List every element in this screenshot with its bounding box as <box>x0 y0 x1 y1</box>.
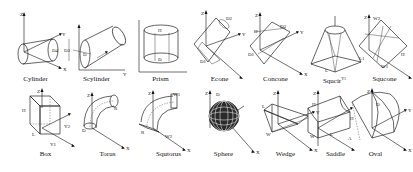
svg-text:W2: W2 <box>373 16 381 21</box>
svg-text:H: H <box>158 28 162 33</box>
svg-text:D2: D2 <box>280 24 287 29</box>
svg-text:L: L <box>325 68 328 73</box>
squtorus-drawing: Z X W1 W2 R <box>137 88 196 154</box>
svg-text:H: H <box>401 52 405 57</box>
shape-label: Cylinder <box>6 75 65 83</box>
svg-text:Z: Z <box>87 93 90 98</box>
shape-cylinder: Z Y X D3 D4 Cylinder <box>6 6 65 80</box>
svg-text:L: L <box>262 104 265 109</box>
svg-text:W1: W1 <box>173 92 181 97</box>
svg-text:D: D <box>82 128 86 133</box>
shape-label: Squtorus <box>139 150 198 158</box>
svg-text:Z: Z <box>313 91 316 96</box>
svg-text:Z: Z <box>148 91 151 96</box>
svg-text:Y2: Y2 <box>64 124 71 129</box>
svg-text:Y: Y <box>300 30 304 35</box>
svg-text:D: D <box>158 57 162 62</box>
svg-text:D2: D2 <box>226 16 233 21</box>
svg-text:Y: Y <box>408 108 412 113</box>
svg-text:W2: W2 <box>165 134 173 139</box>
svg-text:H: H <box>350 116 354 121</box>
svg-text:L: L <box>330 132 333 137</box>
svg-text:R: R <box>114 106 118 111</box>
svg-text:Z: Z <box>20 12 23 17</box>
squcone-drawing: Z W2 W1 L1 H <box>355 6 413 72</box>
shape-label: Scylinder <box>67 75 126 83</box>
shape-label: Sphere <box>194 150 253 158</box>
svg-text:W1: W1 <box>381 64 389 69</box>
shape-label: Torus <box>78 150 137 158</box>
svg-text:H: H <box>254 29 258 34</box>
shape-torus: Z X D R Torus <box>78 88 137 162</box>
shape-concone: Z Y X H D1 D2 Concone <box>246 6 305 80</box>
scylinder-drawing: Y D <box>67 6 126 72</box>
svg-text:Z: Z <box>255 13 258 18</box>
shape-scylinder: Y D Scylinder <box>67 6 126 80</box>
cylinder-drawing: Z Y X D3 D4 <box>6 6 65 72</box>
svg-text:D4: D4 <box>52 48 59 53</box>
sphere-drawing: Z X D <box>200 88 259 154</box>
svg-text:L1: L1 <box>359 56 365 61</box>
svg-text:Z: Z <box>201 11 204 16</box>
shape-squtorus: Z X W1 W2 R Squtorus <box>137 88 196 162</box>
svg-text:L: L <box>32 132 35 137</box>
svg-text:Z: Z <box>205 91 208 96</box>
svg-text:Y: Y <box>62 32 66 37</box>
shape-sphere: Z X D Sphere <box>200 88 259 162</box>
shape-econe: Z Y D2 D1 Econe <box>190 6 249 80</box>
torus-drawing: Z X D R <box>78 88 137 154</box>
svg-text:D: D <box>83 52 87 57</box>
svg-text:R: R <box>141 130 145 135</box>
svg-text:Z: Z <box>364 15 367 20</box>
shape-label: Concone <box>246 75 305 83</box>
shape-label: Squcone <box>355 75 413 83</box>
svg-text:W: W <box>266 132 271 137</box>
box-drawing: Z H L Y1 Y2 <box>4 88 63 154</box>
econe-drawing: Z Y D2 D1 <box>190 6 249 72</box>
shape-oval: Z Y X H D Oval <box>350 88 409 162</box>
svg-text:D1: D1 <box>200 59 207 64</box>
prism-drawing: H D <box>131 6 190 72</box>
shape-label: Prism <box>131 75 190 83</box>
shape-label: Box <box>16 150 75 158</box>
svg-text:D: D <box>216 92 220 97</box>
svg-text:Z: Z <box>273 91 276 96</box>
svg-text:Z: Z <box>37 89 40 94</box>
svg-text:X: X <box>408 148 412 153</box>
primitive-shapes-figure: Z Y X D3 D4 Cylinder Y D S <box>0 0 413 172</box>
shape-box: Z H L Y1 Y2 Box <box>4 88 63 162</box>
svg-text:H: H <box>22 108 26 113</box>
shape-prism: H D Prism <box>131 6 190 80</box>
svg-text:H: H <box>312 102 316 107</box>
concone-drawing: Z Y X H D1 D2 <box>246 6 305 72</box>
shape-squcone: Z W2 W1 L1 H Squcone <box>355 6 413 80</box>
svg-text:W: W <box>310 134 315 139</box>
svg-text:Y1: Y1 <box>50 142 57 147</box>
shape-label: Econe <box>190 75 249 83</box>
oval-drawing: Z Y X H D <box>350 88 409 154</box>
svg-text:D: D <box>376 102 380 107</box>
shape-label: Oval <box>346 150 405 158</box>
svg-text:D1: D1 <box>248 52 255 57</box>
